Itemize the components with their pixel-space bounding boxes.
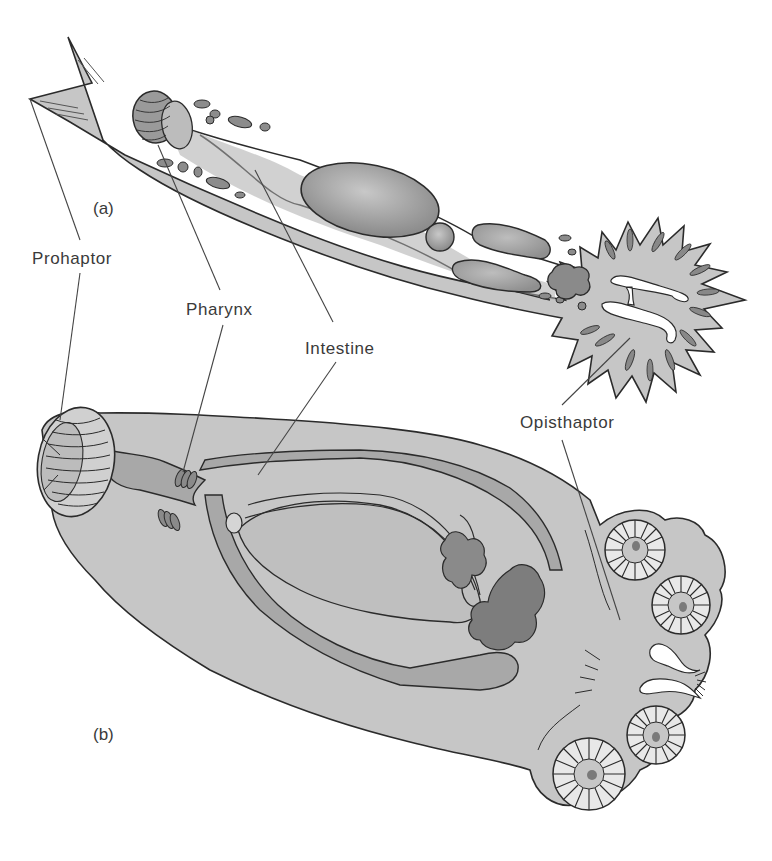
specimen-a (30, 37, 745, 402)
label-opisthaptor: Opisthaptor (520, 413, 614, 433)
label-pharynx: Pharynx (186, 300, 253, 320)
panel-label-b: (b) (93, 725, 114, 745)
testis-a-1 (472, 224, 550, 259)
label-intestine: Intestine (305, 339, 375, 359)
specimen-b (29, 401, 725, 810)
panel-label-a: (a) (93, 199, 114, 219)
pharynx-a (129, 88, 196, 152)
label-prohaptor: Prohaptor (32, 249, 112, 269)
leader-prohaptor-b (60, 273, 80, 420)
diagram-canvas (0, 0, 772, 861)
genital-pore (226, 513, 242, 533)
